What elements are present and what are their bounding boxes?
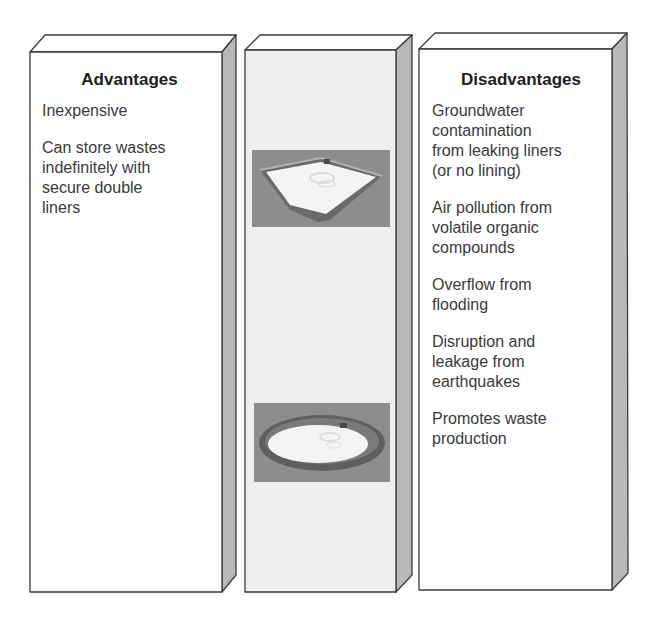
disadvantages-heading: Disadvantages bbox=[432, 70, 610, 90]
disadvantages-item: Overflow from flooding bbox=[432, 275, 610, 315]
rectangular-impoundment-image bbox=[252, 150, 390, 227]
disadvantages-item: Groundwater contamination from leaking l… bbox=[432, 101, 610, 181]
center-panel bbox=[245, 35, 412, 592]
advantages-item: Can store wastes indefinitely with secur… bbox=[42, 138, 217, 218]
disadvantages-item: Air pollution from volatile organic comp… bbox=[432, 198, 610, 258]
advantages-panel-top bbox=[30, 35, 236, 52]
center-panel-front bbox=[245, 50, 396, 592]
disadvantages-item: Promotes waste production bbox=[432, 409, 610, 449]
advantages-panel-side bbox=[222, 35, 236, 592]
center-panel-top bbox=[245, 35, 412, 50]
advantages-heading: Advantages bbox=[42, 70, 217, 90]
disadvantages-item: Disruption and leakage from earthquakes bbox=[432, 332, 610, 392]
disadvantages-panel-side bbox=[612, 33, 628, 590]
disadvantages-panel-top bbox=[419, 33, 627, 49]
advantages-content: Advantages Inexpensive Can store wastes … bbox=[42, 70, 217, 235]
center-panel-side bbox=[396, 35, 412, 592]
disadvantages-content: Disadvantages Groundwater contamination … bbox=[432, 70, 610, 466]
circular-impoundment-image bbox=[254, 403, 390, 482]
advantages-item: Inexpensive bbox=[42, 101, 217, 121]
